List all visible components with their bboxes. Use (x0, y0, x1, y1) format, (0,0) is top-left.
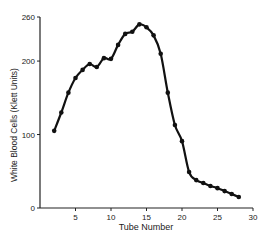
data-point (173, 123, 178, 128)
data-point (158, 51, 163, 56)
data-point (123, 32, 128, 37)
data-point (80, 68, 85, 73)
data-point (87, 62, 92, 67)
x-tick-label: 30 (249, 213, 258, 222)
data-point (144, 25, 149, 30)
data-point (166, 90, 171, 95)
data-point (95, 65, 100, 70)
data-point (187, 170, 192, 175)
axes (40, 17, 253, 208)
y-tick-label: 200 (22, 57, 36, 66)
data-point (222, 189, 227, 194)
data-point (229, 192, 234, 197)
x-tick-label: 25 (213, 213, 222, 222)
y-axis-label: White Blood Cells (Klett Units) (9, 68, 19, 182)
y-tick-label: 100 (22, 131, 36, 140)
data-point (73, 76, 78, 81)
y-tick-label: 0 (31, 204, 36, 213)
data-point (208, 184, 213, 189)
data-point (194, 178, 199, 183)
x-axis-label: Tube Number (119, 222, 174, 232)
x-tick-label: 5 (73, 213, 78, 222)
data-point (130, 29, 135, 34)
data-point (137, 22, 142, 27)
data-point (151, 33, 156, 38)
data-point (237, 195, 242, 200)
y-tick-label: 260 (22, 13, 36, 22)
data-point (66, 90, 71, 95)
data-point (109, 57, 114, 62)
data-points (52, 22, 241, 199)
x-tick-label: 15 (142, 213, 151, 222)
data-point (201, 181, 206, 186)
data-point (116, 43, 121, 48)
data-point (59, 110, 64, 115)
x-tick-label: 10 (107, 213, 116, 222)
data-line (54, 24, 239, 197)
data-point (52, 129, 57, 134)
data-point (180, 139, 185, 144)
x-tick-label: 20 (178, 213, 187, 222)
line-chart: 010020026051015202530 Tube Number White … (0, 0, 271, 241)
data-point (102, 56, 107, 61)
data-point (215, 186, 220, 191)
